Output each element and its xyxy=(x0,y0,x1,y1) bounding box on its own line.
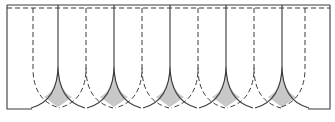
dashed-fold xyxy=(171,8,225,108)
dashed-fold xyxy=(59,8,113,108)
left-edge xyxy=(7,5,32,109)
dashed-fold xyxy=(115,8,169,108)
valance-scallop-diagram xyxy=(0,0,335,122)
right-edge xyxy=(308,5,330,109)
dashed-fold xyxy=(227,8,281,108)
